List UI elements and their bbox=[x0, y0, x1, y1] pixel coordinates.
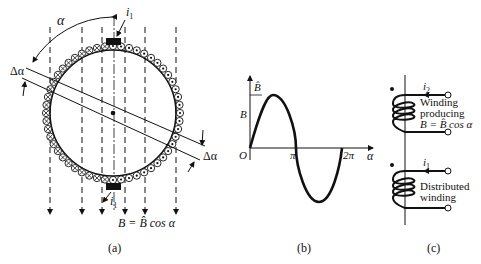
alpha-label: α bbox=[57, 13, 65, 28]
bottom-terminal-1[interactable] bbox=[445, 168, 451, 174]
panel-b: B̂ B O π 2π α (b) bbox=[239, 76, 374, 255]
i2-label: i2 bbox=[423, 80, 430, 95]
caption-a: (a) bbox=[108, 241, 121, 255]
center-point bbox=[111, 111, 116, 116]
caption-c: (c) bbox=[427, 241, 440, 255]
delta-alpha-left-label: Δα bbox=[10, 64, 25, 78]
delta-alpha-left-arrow bbox=[23, 82, 25, 96]
bottom-winding-line2: winding bbox=[420, 191, 457, 203]
top-current-arrow bbox=[117, 20, 125, 36]
panel-a: α Δα Δα i1 i1 B = B̂ cos α (a) bbox=[10, 5, 218, 255]
bottom-winding: i1 Distributed winding bbox=[390, 156, 470, 211]
top-current-block bbox=[106, 38, 121, 45]
bottom-current-block bbox=[106, 183, 121, 190]
panel-c: i2 Winding producing B = B̂ cos α i1 Dis… bbox=[390, 75, 473, 255]
delta-alpha-right-label: Δα bbox=[203, 149, 218, 163]
delta-alpha-right-arrow bbox=[188, 162, 194, 172]
origin-label: O bbox=[239, 149, 247, 161]
pi-label: π bbox=[290, 149, 296, 161]
y-axis-label: B bbox=[240, 108, 247, 120]
x-axis-label: α bbox=[367, 149, 374, 163]
two-pi-label: 2π bbox=[343, 149, 355, 161]
field-equation: B = B̂ cos α bbox=[118, 216, 176, 230]
peak-label: B̂ bbox=[254, 81, 261, 93]
polarity-dot-bottom bbox=[390, 163, 394, 167]
top-current-label: i1 bbox=[126, 5, 133, 21]
i1-label: i1 bbox=[423, 156, 430, 171]
top-winding-line3: B = B̂ cos α bbox=[420, 118, 473, 130]
top-winding: i2 Winding producing B = B̂ cos α bbox=[390, 80, 473, 135]
delta-alpha-right-arrow-2 bbox=[202, 130, 203, 145]
bottom-terminal-2[interactable] bbox=[445, 205, 451, 211]
polarity-dot-top bbox=[390, 87, 394, 91]
caption-b: (b) bbox=[297, 241, 311, 255]
figure: α Δα Δα i1 i1 B = B̂ cos α (a) B̂ B O π … bbox=[0, 0, 481, 264]
